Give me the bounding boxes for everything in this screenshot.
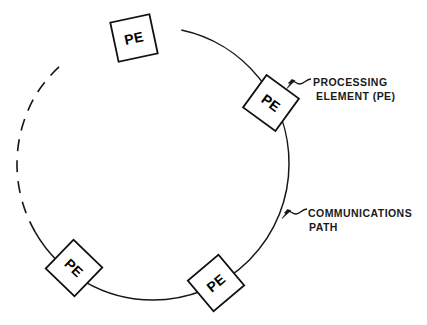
callout-communications-path: COMMUNICATIONS PATH (308, 207, 412, 234)
callout-communications-path-line2: PATH (308, 221, 412, 235)
communications-path-dashed-arc (17, 63, 63, 232)
node-pe-top[interactable]: PE (110, 14, 157, 61)
callout-communications-path-line1: COMMUNICATIONS (308, 207, 412, 221)
diagram-canvas: PE PE PE PE PROCESSING ELEMEN (0, 0, 427, 325)
arrowhead-icon (287, 80, 295, 89)
ring-diagram: PE PE PE PE (0, 0, 427, 325)
callout-processing-element-line1: PROCESSING (313, 76, 396, 90)
arrowhead-icon (282, 210, 291, 219)
processing-element-leader (287, 79, 311, 89)
callout-processing-element: PROCESSING ELEMENT (PE) (313, 76, 396, 103)
node-pe-bottom-left[interactable]: PE (46, 240, 103, 297)
callout-processing-element-line2: ELEMENT (PE) (313, 90, 396, 104)
communications-path-leader (282, 209, 307, 219)
node-pe-bottom-right[interactable]: PE (188, 255, 244, 311)
